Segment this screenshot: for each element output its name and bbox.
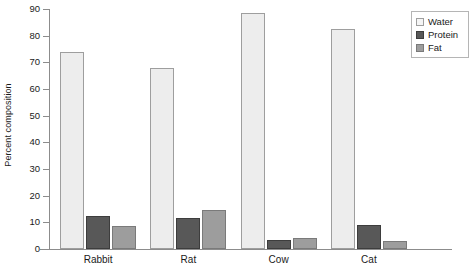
- legend-swatch-protein-icon: [416, 31, 424, 39]
- bar-group-rat: [150, 9, 226, 249]
- x-axis-line: [40, 249, 452, 250]
- y-tick-0: [43, 249, 49, 250]
- bar-rat-protein: [176, 218, 200, 249]
- bar-rabbit-water: [60, 52, 84, 249]
- y-tick-label-70: 70: [14, 57, 40, 67]
- legend-swatch-fat-icon: [416, 44, 424, 52]
- legend-swatch-water-icon: [416, 18, 424, 26]
- bar-cat-water: [331, 29, 355, 249]
- chart-legend: Water Protein Fat: [411, 11, 469, 58]
- y-tick-label-50: 50: [14, 111, 40, 121]
- legend-label-protein: Protein: [428, 30, 458, 40]
- bar-group-cow: [241, 9, 317, 249]
- bar-rat-fat: [202, 210, 226, 249]
- y-tick-label-10: 10: [14, 217, 40, 227]
- bar-rabbit-protein: [86, 216, 110, 249]
- bar-cow-fat: [293, 238, 317, 249]
- legend-label-fat: Fat: [428, 43, 442, 53]
- legend-item-water: Water: [416, 15, 465, 28]
- bar-cat-fat: [383, 241, 407, 249]
- bar-rat-water: [150, 68, 174, 249]
- bar-group-cat: [331, 9, 407, 249]
- x-axis-label-cat: Cat: [311, 254, 427, 265]
- y-axis-title-text: Percent composition: [3, 83, 13, 166]
- bar-cat-protein: [357, 225, 381, 249]
- y-tick-label-20: 20: [14, 191, 40, 201]
- bar-chart: Percent composition 0102030405060708090 …: [0, 0, 472, 272]
- bar-cow-protein: [267, 240, 291, 249]
- legend-item-protein: Protein: [416, 28, 465, 41]
- legend-label-water: Water: [428, 17, 453, 27]
- y-tick-label-0: 0: [14, 244, 40, 254]
- bar-rabbit-fat: [112, 226, 136, 249]
- bar-group-rabbit: [60, 9, 136, 249]
- y-tick-label-60: 60: [14, 84, 40, 94]
- bar-cow-water: [241, 13, 265, 249]
- plot-area: [49, 9, 410, 249]
- y-tick-label-40: 40: [14, 137, 40, 147]
- legend-item-fat: Fat: [416, 41, 465, 54]
- y-tick-label-80: 80: [14, 31, 40, 41]
- y-tick-label-30: 30: [14, 164, 40, 174]
- y-tick-label-90: 90: [14, 4, 40, 14]
